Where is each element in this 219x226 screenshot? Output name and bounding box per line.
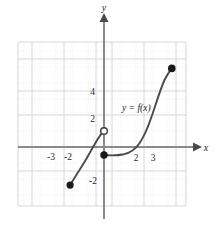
- marker-left-endpoint-filled: [67, 182, 74, 189]
- y-tick-label-4: 4: [90, 87, 95, 97]
- marker-right-endpoint-filled: [168, 65, 176, 73]
- function-graph-svg: x y -3 -2 2 3 4 2 -2 y = f(x): [0, 0, 219, 226]
- graph-figure: x y -3 -2 2 3 4 2 -2 y = f(x): [0, 0, 219, 226]
- y-tick-label-neg2: -2: [89, 176, 97, 186]
- marker-filled-dot-at-zero: [100, 151, 107, 158]
- function-label: y = f(x): [121, 103, 151, 114]
- x-tick-label-2: 2: [134, 153, 139, 163]
- x-tick-label-neg2: -2: [64, 152, 72, 162]
- x-tick-label-neg3: -3: [47, 152, 55, 162]
- x-tick-label-3: 3: [151, 153, 156, 163]
- y-axis-label: y: [101, 2, 107, 13]
- y-tick-label-2: 2: [90, 114, 95, 124]
- x-axis-label: x: [203, 142, 209, 153]
- marker-open-circle-at-zero: [101, 128, 108, 135]
